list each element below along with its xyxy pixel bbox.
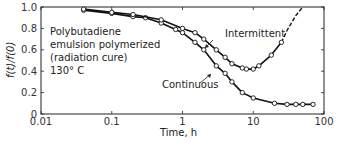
data-point — [251, 67, 255, 71]
chart: 0.010.111010000.20.40.60.81.0 Polybutadi… — [0, 0, 337, 151]
data-point — [230, 62, 234, 66]
data-point — [214, 48, 218, 52]
data-point — [257, 64, 261, 68]
data-point — [81, 7, 85, 11]
data-point — [173, 27, 177, 31]
data-point — [230, 80, 234, 84]
y-tick-label: 0.4 — [21, 66, 37, 77]
y-tick-label: 0 — [31, 109, 37, 120]
data-point — [272, 101, 276, 105]
data-point — [269, 53, 273, 57]
data-point — [279, 40, 283, 44]
x-tick-label: 10 — [247, 116, 260, 127]
data-point — [180, 26, 184, 30]
data-point — [244, 67, 248, 71]
data-point — [214, 64, 218, 68]
x-tick-label: 1 — [179, 116, 185, 127]
y-tick-label: 0.2 — [21, 87, 37, 98]
annotation-line-3: (radiation cure) — [50, 52, 128, 63]
data-point — [285, 102, 289, 106]
y-axis-label: f(t)/f(0) — [5, 42, 16, 78]
data-point — [193, 30, 197, 34]
data-point — [202, 37, 206, 41]
data-point — [110, 10, 114, 14]
x-axis-label: Time, h — [159, 127, 197, 138]
data-point — [294, 102, 298, 106]
data-point — [180, 30, 184, 34]
data-point — [131, 12, 135, 16]
annotation-line-4: 130° C — [50, 65, 84, 76]
data-point — [240, 90, 244, 94]
y-tick-label: 1.0 — [21, 2, 37, 13]
y-tick-label: 0.8 — [21, 23, 37, 34]
x-tick-label: 0.1 — [104, 116, 120, 127]
data-point — [193, 40, 197, 44]
data-point — [223, 55, 227, 59]
y-tick-label: 0.6 — [21, 44, 37, 55]
annotation-line-1: Polybutadiene — [50, 26, 121, 37]
x-tick-label: 100 — [314, 116, 333, 127]
data-point — [301, 102, 305, 106]
annotation-line-2: emulsion polymerized — [50, 39, 160, 50]
data-point — [251, 96, 255, 100]
label-intermittent: Intermittent — [225, 28, 285, 39]
data-point — [159, 18, 163, 22]
label-continuous: Continuous — [162, 79, 218, 90]
data-point — [223, 71, 227, 75]
data-point — [202, 48, 206, 52]
arrowhead-continuous-icon — [207, 74, 211, 78]
data-point — [311, 102, 315, 106]
